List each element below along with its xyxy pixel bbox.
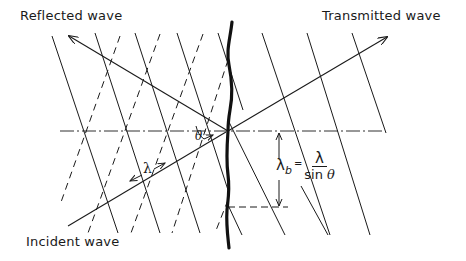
boundary-interface <box>227 22 232 248</box>
incident-wave-label: Incident wave <box>26 234 119 249</box>
lambda-label: λ <box>143 160 152 176</box>
incident-ray <box>68 132 226 226</box>
reflected-wave-label: Reflected wave <box>20 8 122 23</box>
formula-lhs: λb <box>276 156 292 177</box>
formula-denominator: sin θ <box>304 167 335 183</box>
lambda-b-formula: λb = λ sin θ <box>276 150 335 183</box>
theta-label: θ <box>195 129 202 143</box>
lambda-dimension-left <box>130 175 142 181</box>
diagram-canvas <box>0 0 466 261</box>
reflected-ray <box>69 36 228 131</box>
formula-fraction: λ sin θ <box>304 150 335 183</box>
incident-wavefronts <box>52 33 243 233</box>
transmitted-wave-label: Transmitted wave <box>322 8 441 23</box>
wave-refraction-diagram: Reflected wave Transmitted wave Incident… <box>0 0 466 261</box>
formula-equals: = <box>294 158 302 169</box>
transmitted-wavefronts <box>228 33 386 235</box>
transmitted-ray <box>228 37 387 131</box>
formula-numerator: λ <box>312 150 327 167</box>
